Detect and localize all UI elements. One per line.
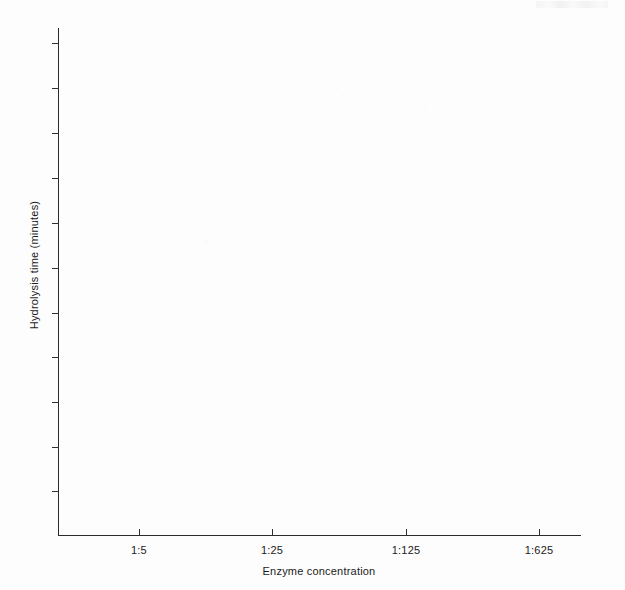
y-axis-line (58, 28, 59, 536)
plot-area (59, 28, 581, 535)
x-axis-line (58, 535, 581, 536)
y-axis-tick (52, 491, 59, 492)
chart-figure: 1:51:251:1251:625 Enzyme concentration H… (0, 0, 625, 590)
scan-artifact (536, 1, 608, 8)
x-axis-tick (406, 529, 407, 536)
y-axis-tick (52, 178, 59, 179)
x-axis-tick (539, 529, 540, 536)
x-axis-title: Enzyme concentration (263, 565, 376, 577)
x-axis-tick-label: 1:125 (392, 544, 421, 556)
y-axis-tick (52, 88, 59, 89)
x-axis-tick (139, 529, 140, 536)
y-axis-tick (52, 357, 59, 358)
x-axis-tick-label: 1:5 (131, 544, 147, 556)
y-axis-tick (52, 268, 59, 269)
y-axis-tick (52, 447, 59, 448)
y-axis-tick (52, 223, 59, 224)
y-axis-tick (52, 43, 59, 44)
y-axis-tick (52, 313, 59, 314)
y-axis-tick (52, 402, 59, 403)
x-axis-tick-label: 1:25 (261, 544, 283, 556)
x-axis-tick (272, 529, 273, 536)
x-axis-tick-label: 1:625 (525, 544, 554, 556)
y-axis-tick (52, 133, 59, 134)
y-axis-title: Hydrolysis time (minutes) (28, 195, 40, 335)
